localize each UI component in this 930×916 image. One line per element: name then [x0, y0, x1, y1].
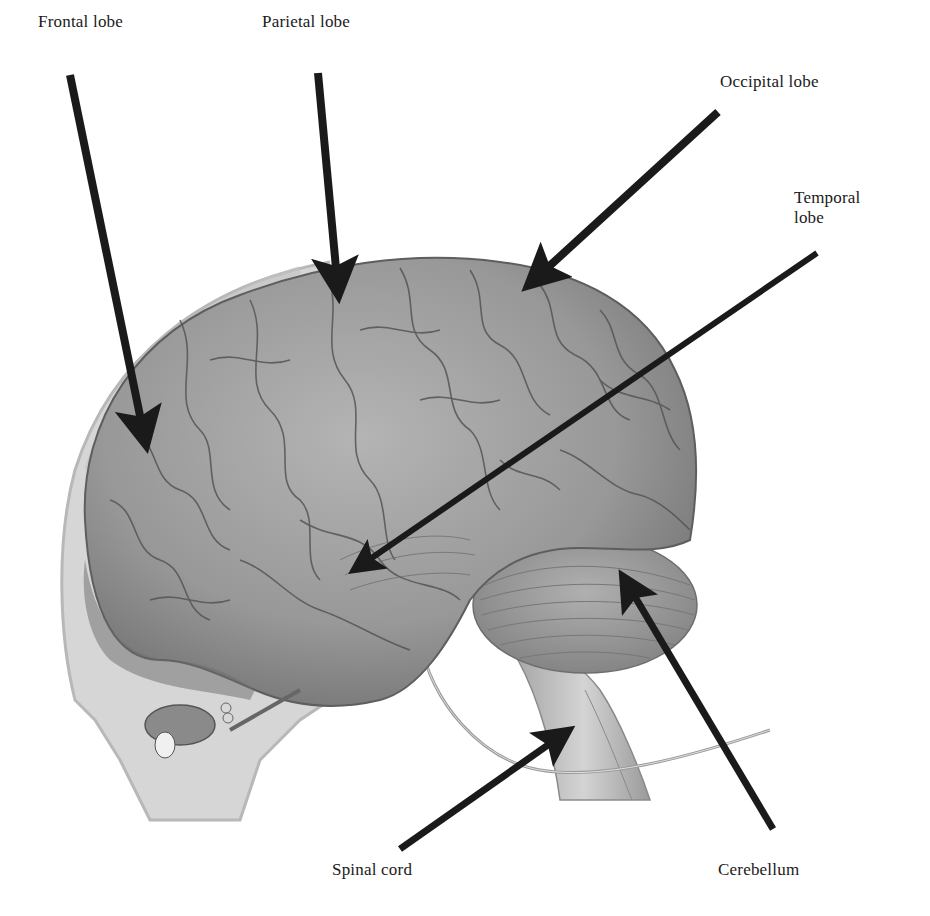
frontal-lobe-arrow	[70, 75, 145, 440]
parietal-lobe-arrow	[318, 73, 338, 290]
label-temporal-lobe: Temporal lobe	[794, 188, 861, 228]
occipital-lobe-arrow	[532, 112, 718, 282]
label-parietal-lobe: Parietal lobe	[262, 12, 350, 32]
label-spinal-cord: Spinal cord	[332, 860, 412, 880]
label-frontal-lobe: Frontal lobe	[38, 12, 123, 32]
label-occipital-lobe: Occipital lobe	[720, 72, 819, 92]
brain-diagram: Frontal lobe Parietal lobe Occipital lob…	[0, 0, 930, 916]
spinal-cord-arrow	[400, 733, 565, 849]
brain-illustration	[0, 0, 930, 916]
label-cerebellum: Cerebellum	[718, 860, 799, 880]
